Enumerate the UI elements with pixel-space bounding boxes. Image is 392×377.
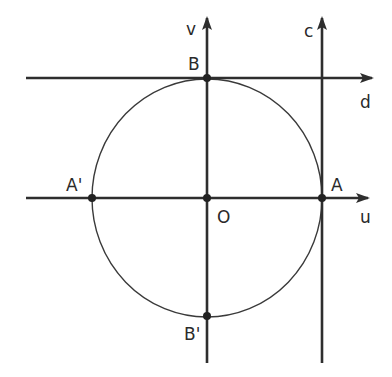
unit-circle-diagram: v c B d A' A O u B' bbox=[0, 0, 392, 377]
label-d: d bbox=[360, 92, 371, 112]
point-a bbox=[318, 194, 326, 202]
label-v: v bbox=[186, 19, 196, 39]
point-o bbox=[203, 194, 211, 202]
point-b-prime bbox=[203, 312, 211, 320]
label-o: O bbox=[217, 207, 230, 227]
label-b-prime: B' bbox=[184, 324, 200, 344]
point-b bbox=[203, 74, 211, 82]
label-b: B bbox=[188, 54, 200, 74]
label-u: u bbox=[360, 207, 371, 227]
label-c: c bbox=[304, 21, 313, 41]
label-a-prime: A' bbox=[66, 175, 82, 195]
point-a-prime bbox=[88, 194, 96, 202]
label-a: A bbox=[331, 175, 343, 195]
